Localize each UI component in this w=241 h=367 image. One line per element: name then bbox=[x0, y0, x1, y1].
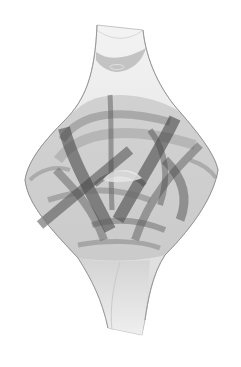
tail-region bbox=[78, 258, 150, 335]
attractor-art bbox=[0, 0, 241, 367]
artwork-canvas bbox=[0, 0, 241, 367]
